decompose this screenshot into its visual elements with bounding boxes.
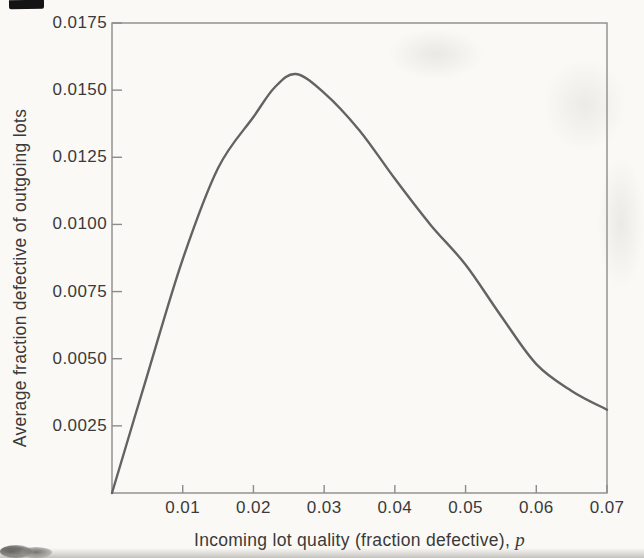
y-tick-label: 0.0150 [41,81,107,99]
y-tick-label: 0.0025 [41,417,107,435]
x-tick-label: 0.02 [221,499,285,517]
y-tick-label: 0.0175 [41,14,107,32]
y-tick-label: 0.0100 [41,215,107,233]
aoq-curve [112,74,607,493]
x-tick-label: 0.01 [151,499,215,517]
y-tick-label: 0.0075 [41,283,107,301]
y-tick-label: 0.0125 [41,148,107,166]
x-axis-title-variable: p [515,529,525,550]
x-tick-label: 0.04 [363,499,427,517]
x-axis-title: Incoming lot quality (fraction defective… [112,529,607,551]
y-axis-title: Average fraction defective of outgoing l… [10,95,30,461]
x-axis-title-text: Incoming lot quality (fraction defective… [194,530,515,550]
aoq-chart-figure: 0.00250.00500.00750.01000.01250.01500.01… [0,0,644,558]
x-tick-label: 0.07 [575,499,639,517]
x-tick-label: 0.06 [504,499,568,517]
plot-frame [112,23,607,493]
x-tick-label: 0.05 [434,499,498,517]
y-tick-label: 0.0050 [41,350,107,368]
x-tick-label: 0.03 [292,499,356,517]
